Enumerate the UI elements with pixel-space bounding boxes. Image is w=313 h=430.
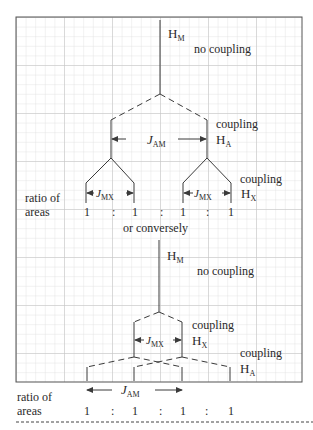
bottom-coupling-x-label: coupling (192, 319, 234, 332)
top-hx-label: HX (241, 187, 256, 205)
top-ratio-of-label: ratio of (25, 192, 60, 205)
bottom-hm-label: HM (167, 249, 184, 267)
top-hm-label: HM (168, 27, 185, 45)
top-coupling-x-label: coupling (240, 173, 282, 186)
bottom-coupling-a-label: coupling (240, 347, 282, 360)
top-coupling-a-label: coupling (216, 118, 258, 131)
bottom-jmx-label: JMX (146, 334, 164, 351)
or-conversely-label: or conversely (123, 222, 188, 235)
bottom-no-coupling-label: no coupling (197, 265, 254, 278)
top-jmx-right-label: JMX (194, 187, 212, 204)
top-no-coupling-label: no coupling (194, 43, 251, 56)
bottom-ratio-of-label: ratio of (17, 391, 52, 404)
top-jmx-left-label: JMX (96, 187, 114, 204)
bottom-hx-label: HX (192, 334, 207, 352)
bottom-areas-label: areas (17, 405, 42, 418)
top-areas-label: areas (25, 206, 50, 219)
bottom-ha-label: HA (240, 362, 255, 380)
top-ha-label: HA (216, 133, 231, 151)
top-jam-label: JAM (147, 133, 166, 151)
bottom-jam-label: JAM (121, 383, 140, 401)
